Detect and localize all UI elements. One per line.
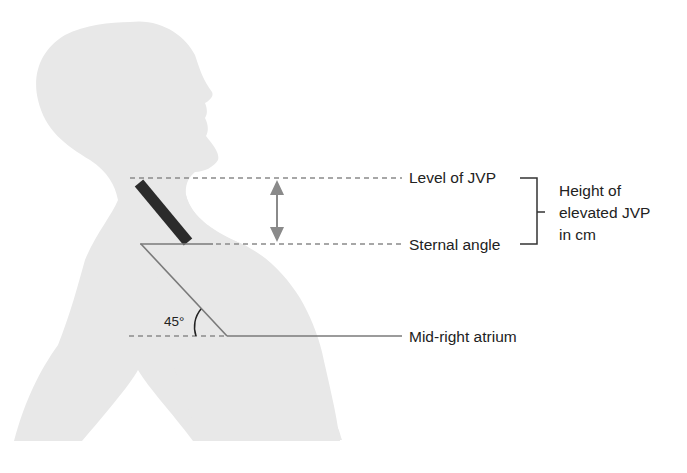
height-double-arrow bbox=[270, 180, 284, 242]
level-of-jvp-label: Level of JVP bbox=[409, 169, 496, 186]
arrow-down-head bbox=[270, 227, 284, 242]
height-label-line2: elevated JVP bbox=[559, 204, 650, 221]
sternal-angle-label: Sternal angle bbox=[409, 236, 500, 253]
mid-right-atrium-label: Mid-right atrium bbox=[409, 328, 517, 345]
height-label-line1: Height of bbox=[559, 182, 622, 199]
angle-45-label: 45° bbox=[164, 314, 184, 329]
height-label-line3: in cm bbox=[559, 226, 596, 243]
arrow-up-head bbox=[270, 180, 284, 195]
height-bracket bbox=[520, 178, 545, 244]
jvp-diagram: 45° Level of JVP Sternal angle Mid-right… bbox=[0, 0, 687, 473]
